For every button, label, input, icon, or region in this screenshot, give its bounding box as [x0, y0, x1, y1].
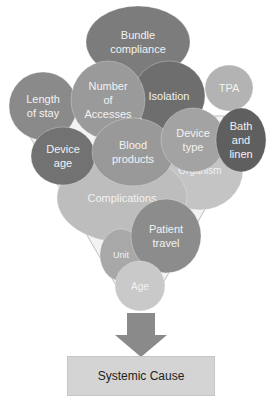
bubble-label: travel: [153, 237, 180, 249]
bubble-blood-products: Bloodproducts: [92, 118, 174, 186]
bubble-label: age: [54, 157, 72, 169]
down-arrow-icon: [115, 313, 167, 357]
bubble-label: type: [183, 141, 204, 153]
bubble-label: of: [103, 94, 113, 106]
bubble-label: Device: [46, 143, 80, 155]
bubble-label: Number: [88, 80, 127, 92]
bubble-label: Patient: [149, 223, 183, 235]
bubble-label: Accesses: [84, 108, 132, 120]
bubble-tpa: TPA: [205, 65, 253, 111]
bubble-label: TPA: [219, 82, 240, 94]
bubble-label: compliance: [110, 43, 166, 55]
bubble-label: Blood: [119, 139, 147, 151]
bubble-label: products: [112, 153, 155, 165]
bubble-label: linen: [229, 148, 252, 160]
bubble-label: Age: [131, 281, 149, 292]
systemic-cause-label: Systemic Cause: [98, 369, 185, 383]
bubble-label: Isolation: [149, 90, 190, 102]
bubble-label: Device: [176, 127, 210, 139]
bubble-label: Bath: [230, 120, 253, 132]
bubble-label: Complications: [87, 192, 157, 204]
bubble-label: Bundle: [121, 29, 155, 41]
systemic-cause-box: Systemic Cause: [67, 356, 215, 396]
bubble-label: Length: [26, 93, 60, 105]
bubble-device-age: Deviceage: [31, 127, 95, 185]
bubble-bath-and-linen: Bathandlinen: [216, 108, 266, 172]
bubble-label: of stay: [27, 107, 60, 119]
bubble-label: Unit: [113, 250, 130, 260]
bubble-device-type: Devicetype: [161, 108, 225, 172]
bubble-age: Age: [115, 261, 165, 311]
funnel-diagram: BundlecomplianceOrganismComplicationsIso…: [0, 0, 276, 406]
bubble-label: and: [232, 134, 250, 146]
